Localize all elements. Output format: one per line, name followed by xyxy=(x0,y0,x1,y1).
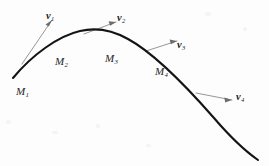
vector-label-v1-base: v xyxy=(46,10,51,21)
point-label-m2-subscript: 2 xyxy=(65,61,69,68)
vector-label-v3-subscript: 3 xyxy=(182,44,185,51)
vector-label-v2: v2 xyxy=(117,13,125,24)
point-label-m4-base: M xyxy=(155,65,164,77)
vector-label-v3: v3 xyxy=(177,40,185,51)
point-label-m3-base: M xyxy=(105,52,114,64)
point-label-m2: M2 xyxy=(55,56,68,67)
vector-label-v3-base: v xyxy=(177,39,182,50)
diagram-vector-graphics xyxy=(0,0,269,166)
vector-label-v4: v4 xyxy=(236,92,244,103)
vector-label-v4-base: v xyxy=(236,91,241,102)
point-label-m1: M1 xyxy=(16,86,29,97)
point-label-m3-subscript: 3 xyxy=(115,58,119,65)
point-label-m1-subscript: 1 xyxy=(26,91,30,98)
vector-label-v2-subscript: 2 xyxy=(122,17,125,24)
vector-label-v4-subscript: 4 xyxy=(241,96,244,103)
point-label-m4: M4 xyxy=(155,66,168,77)
arrowhead-v2-icon xyxy=(109,21,117,26)
figure-canvas: M1 M2 M3 M4 v1 v2 v3 v4 xyxy=(0,0,269,166)
tangent-line-v1 xyxy=(22,20,52,64)
vector-label-v1-subscript: 1 xyxy=(51,15,54,22)
arrowhead-v4-icon xyxy=(224,98,232,103)
point-label-m2-base: M xyxy=(55,55,64,67)
point-label-m1-base: M xyxy=(16,85,25,97)
point-label-m3: M3 xyxy=(105,53,118,64)
vector-label-v1: v1 xyxy=(46,11,54,22)
trajectory-curve xyxy=(13,29,258,160)
point-label-m4-subscript: 4 xyxy=(165,71,169,78)
arrowhead-v3-icon xyxy=(170,40,177,45)
vector-label-v2-base: v xyxy=(117,12,122,23)
